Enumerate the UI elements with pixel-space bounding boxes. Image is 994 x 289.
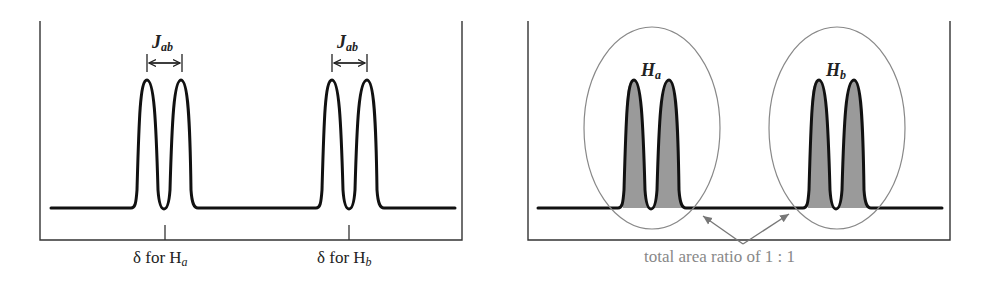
- group-label-hb: Hb: [825, 60, 846, 82]
- group-label-ha: Ha: [640, 60, 661, 82]
- coupling-label-ha: Jab: [151, 32, 173, 54]
- group-ellipse-hb: [769, 27, 905, 229]
- area-ratio-annotation: total area ratio of 1 : 1: [644, 247, 795, 266]
- coupling-indicator-hb: Jab: [332, 32, 367, 72]
- right-spectrum-panel: Ha Hb total area ratio of 1 : 1: [528, 21, 950, 266]
- axis-label-hb: δ for Hb: [317, 248, 372, 269]
- left-spectrum-line: [51, 80, 455, 209]
- axis-label-ha: δ for Ha: [133, 248, 188, 269]
- nmr-diagram: Jab Jab δ for Ha δ for Hb: [0, 0, 994, 289]
- coupling-indicator-ha: Jab: [147, 32, 182, 72]
- group-ellipse-ha: [584, 27, 720, 229]
- left-spectrum-panel: Jab Jab δ for Ha δ for Hb: [40, 21, 462, 269]
- coupling-label-hb: Jab: [336, 32, 358, 54]
